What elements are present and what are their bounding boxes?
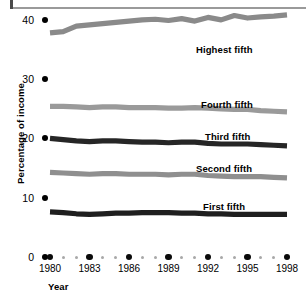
x-tick-label-1989: 1989 bbox=[157, 263, 179, 274]
x-tick-label-1983: 1983 bbox=[78, 263, 100, 274]
x-tick-minor-1981 bbox=[62, 256, 65, 259]
x-tick-minor-1991 bbox=[193, 256, 196, 259]
chart-root: Percentage of income 40 30 20 10 0 Highe… bbox=[0, 0, 306, 304]
x-tick-label-1995: 1995 bbox=[236, 263, 258, 274]
x-tick-minor-1993 bbox=[220, 256, 223, 259]
x-tick-major-1989 bbox=[165, 254, 172, 261]
x-tick-minor-1996 bbox=[259, 256, 262, 259]
x-tick-minor-1982 bbox=[75, 256, 78, 259]
x-tick-major-1995 bbox=[244, 254, 251, 261]
x-tick-major-1983 bbox=[86, 254, 93, 261]
x-axis-title: Year bbox=[48, 281, 68, 292]
x-tick-label-1998: 1998 bbox=[276, 263, 298, 274]
x-tick-major-1986 bbox=[126, 254, 133, 261]
x-tick-label-1992: 1992 bbox=[197, 263, 219, 274]
x-tick-minor-1997 bbox=[272, 256, 275, 259]
x-tick-minor-1985 bbox=[114, 256, 117, 259]
x-axis-ticks: 1980198319861989199219951998 bbox=[0, 0, 306, 304]
x-tick-major-1998 bbox=[284, 254, 291, 261]
x-tick-minor-1990 bbox=[180, 256, 183, 259]
x-tick-minor-1984 bbox=[101, 256, 104, 259]
x-tick-minor-1987 bbox=[141, 256, 144, 259]
x-tick-major-1980 bbox=[47, 254, 54, 261]
x-tick-label-1980: 1980 bbox=[39, 263, 61, 274]
x-tick-major-1992 bbox=[205, 254, 212, 261]
x-tick-label-1986: 1986 bbox=[118, 263, 140, 274]
x-tick-minor-1988 bbox=[154, 256, 157, 259]
x-tick-minor-1994 bbox=[233, 256, 236, 259]
